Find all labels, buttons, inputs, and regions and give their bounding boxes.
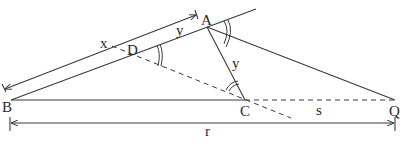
dimension-ba-tick-left [2, 84, 6, 92]
point-label-d: D [127, 42, 138, 58]
line-dc-dashed [112, 46, 291, 118]
angle-mark-a-arc1 [224, 21, 227, 44]
point-label-a: A [201, 12, 212, 28]
point-label-q: Q [389, 103, 400, 119]
point-label-c: C [240, 103, 250, 119]
segment-label-r: r [205, 123, 210, 139]
point-label-b: B [2, 99, 12, 115]
segment-label-x: x [100, 35, 108, 51]
angle-mark-d-arc2 [160, 44, 162, 66]
geometry-diagram: A B C D Q x y y s r [0, 0, 417, 149]
dimension-ba-tick-right [195, 10, 198, 19]
dimension-ba [5, 15, 196, 89]
segment-label-s: s [316, 102, 322, 118]
angle-mark-d-arc1 [157, 45, 159, 66]
segment-label-y-top: y [176, 22, 184, 38]
segment-label-y-ac: y [232, 55, 240, 71]
